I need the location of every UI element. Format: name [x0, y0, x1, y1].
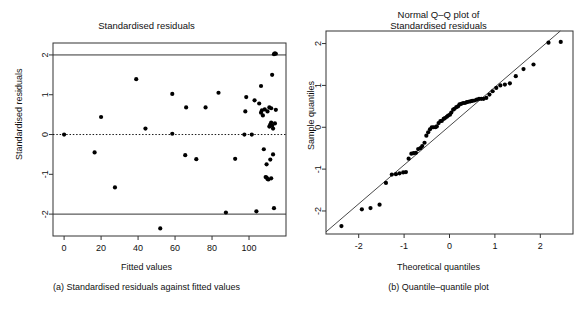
- panel-b-qqplot: Normal Q–Q plot of Standardised residual…: [292, 0, 585, 309]
- panel-a-data-point: [134, 77, 138, 81]
- panel-a-data-point: [252, 98, 256, 102]
- panel-a-data-point: [250, 132, 254, 136]
- panel-a-xtick-label: 20: [96, 243, 106, 253]
- panel-b-xtick-label: -2: [355, 241, 363, 251]
- panel-a-data-point: [274, 108, 278, 112]
- panel-a-data-point: [203, 105, 207, 109]
- panel-b-data-point: [422, 141, 426, 145]
- panel-b-x-axis-label: Theoretical quantiles: [292, 262, 585, 272]
- panel-b-ytick-label: 2: [313, 41, 323, 46]
- panel-a-ytick-label: 0: [40, 132, 50, 137]
- panel-b-data-point: [521, 67, 525, 71]
- panel-a-data-point: [99, 115, 103, 119]
- panel-a-data-point: [216, 91, 220, 95]
- panel-a-data-point: [170, 92, 174, 96]
- panel-a-ytick-label: 2: [40, 52, 50, 57]
- panel-b-reference-line: [326, 31, 560, 232]
- panel-a-data-point: [93, 150, 97, 154]
- panel-a-data-point: [183, 153, 187, 157]
- panel-a-data-point: [254, 209, 258, 213]
- panel-a-ytick-label: -1: [40, 170, 50, 178]
- panel-a-data-point: [113, 185, 117, 189]
- panel-b-data-point: [414, 151, 418, 155]
- panel-a-data-point: [269, 106, 273, 110]
- panel-b-xtick-label: 0: [447, 241, 452, 251]
- panel-b-data-point: [491, 89, 495, 93]
- panel-b-data-point: [484, 96, 488, 100]
- panel-a-residuals: Standardised residuals 210-1-20204060801…: [0, 0, 293, 309]
- panel-a-ytick-label: 1: [40, 92, 50, 97]
- panel-b-data-point: [498, 83, 502, 87]
- panel-b-y-axis-label: Sample quantiles: [306, 81, 316, 150]
- panel-a-data-point: [170, 132, 174, 136]
- panel-a-data-point: [257, 101, 261, 105]
- panel-a-data-point: [194, 157, 198, 161]
- panel-a-data-point: [271, 126, 275, 130]
- panel-a-data-point: [270, 73, 274, 77]
- panel-b-data-point: [339, 224, 343, 228]
- panel-b-frame: [326, 31, 573, 234]
- panel-a-xtick-label: 80: [207, 243, 217, 253]
- panel-b-data-point: [508, 81, 512, 85]
- panel-a-data-point: [259, 84, 263, 88]
- panel-b-data-point: [494, 86, 498, 90]
- panel-a-data-point: [273, 121, 277, 125]
- panel-b-data-point: [514, 74, 518, 78]
- panel-a-xtick-label: 0: [62, 243, 67, 253]
- panel-b-data-point: [546, 41, 550, 45]
- panel-a-data-point: [272, 206, 276, 210]
- panel-a-ytick-label: -2: [40, 210, 50, 218]
- panel-a-data-point: [243, 109, 247, 113]
- panel-b-data-point: [559, 40, 563, 44]
- panel-a-xtick-label: 100: [242, 243, 257, 253]
- panel-a-data-point: [261, 113, 265, 117]
- panel-b-xtick-label: 1: [492, 241, 497, 251]
- panel-a-data-point: [271, 152, 275, 156]
- panel-b-caption: (b) Quantile–quantile plot: [292, 282, 585, 292]
- panel-a-y-axis-label: Standardised residuals: [14, 68, 24, 160]
- panel-a-data-point: [262, 147, 266, 151]
- panel-a-xtick-label: 40: [133, 243, 143, 253]
- panel-b-xtick-label: -1: [400, 241, 408, 251]
- panel-a-data-point: [158, 226, 162, 230]
- panel-a-data-point: [269, 176, 273, 180]
- panel-b-data-point: [531, 62, 535, 66]
- panel-a-data-point: [184, 105, 188, 109]
- panel-b-data-point: [384, 181, 388, 185]
- panel-a-data-point: [265, 109, 269, 113]
- panel-a-data-point: [274, 52, 278, 56]
- panel-b-data-point: [390, 172, 394, 176]
- panel-a-xtick-label: 60: [170, 243, 180, 253]
- panel-b-ytick-label: -2: [313, 207, 323, 215]
- panel-a-x-axis-label: Fitted values: [0, 262, 293, 272]
- panel-b-data-point: [404, 170, 408, 174]
- panel-b-data-point: [360, 207, 364, 211]
- panel-a-data-point: [242, 132, 246, 136]
- panel-a-data-point: [264, 162, 268, 166]
- panel-b-data-point: [394, 172, 398, 176]
- panel-b-data-point: [487, 93, 491, 97]
- panel-a-caption: (a) Standardised residuals against fitte…: [0, 282, 293, 292]
- panel-a-data-point: [143, 126, 147, 130]
- panel-a-data-point: [244, 95, 248, 99]
- panel-a-data-point: [62, 132, 66, 136]
- panel-b-data-point: [377, 203, 381, 207]
- panel-b-data-point: [407, 157, 411, 161]
- panel-a-data-point: [224, 210, 228, 214]
- panel-b-data-point: [503, 82, 507, 86]
- panel-a-data-point: [268, 157, 272, 161]
- panel-a-data-point: [233, 157, 237, 161]
- panel-b-xtick-label: 2: [538, 241, 543, 251]
- panel-b-ytick-label: -1: [313, 165, 323, 173]
- figure-container: Standardised residuals 210-1-20204060801…: [0, 0, 585, 309]
- panel-a-frame: [53, 43, 286, 236]
- panel-b-data-point: [397, 171, 401, 175]
- panel-b-data-point: [368, 206, 372, 210]
